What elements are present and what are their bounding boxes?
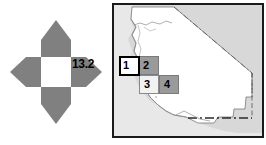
figure-root: 13.2 (0, 0, 266, 145)
california-map-panel: 1 2 3 4 (112, 3, 264, 138)
compass-value-label: 13.2 (72, 57, 94, 71)
map-grid-cell-3-label: 3 (144, 79, 150, 90)
map-grid-cell-1-label: 1 (123, 60, 129, 71)
compass-rose-panel: 13.2 (0, 0, 110, 145)
map-grid-cell-2-label: 2 (143, 60, 149, 71)
compass-rose-icon (8, 14, 104, 130)
compass-center-square (41, 57, 71, 87)
offshore-island-mark (155, 96, 157, 98)
map-grid-cell-4-label: 4 (164, 79, 170, 90)
